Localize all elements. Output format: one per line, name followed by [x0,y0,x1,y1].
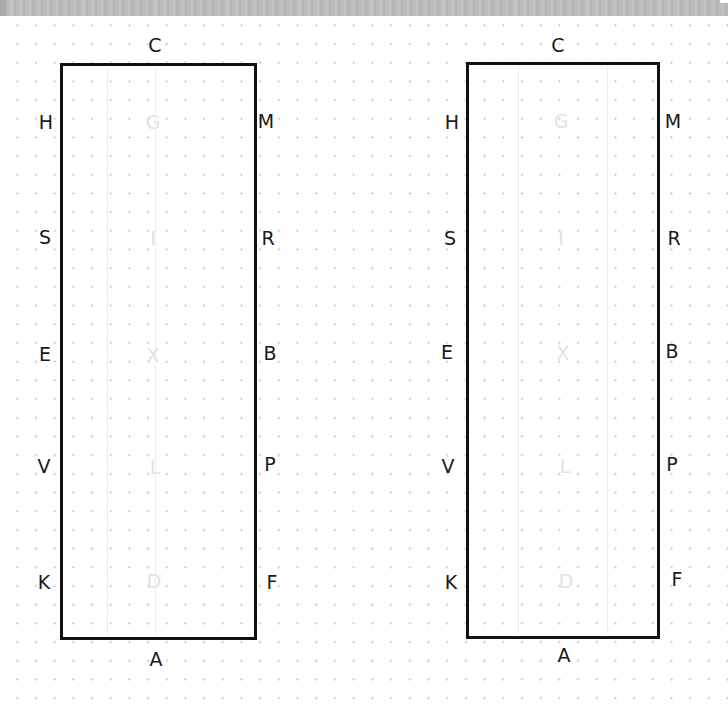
arena-right-letter-left-5: K [445,573,457,592]
arena-left-letter-top: C [148,36,161,55]
arena-right-centerline-letter-5: D [559,572,574,591]
toolbar-right-edge [720,0,728,3]
arena-right-letter-right-4: P [666,455,677,474]
arena-right-centerline-letter-2: I [558,229,564,248]
arena-left-letter-right-5: F [267,573,278,592]
arena-right-letter-left-1: H [445,113,459,132]
arena-left-letter-left-3: E [39,345,51,364]
arena-right-letter-right-3: B [665,342,678,361]
arena-right-letter-right-5: F [672,570,683,589]
arena-right-centerline-letter-1: G [554,112,569,131]
arena-left-centerline-letter-4: L [150,458,161,477]
arena-left-letter-left-5: K [38,573,50,592]
arena-left-letter-left-4: V [38,457,51,476]
arena-right-centerline-letter-3: X [556,344,569,363]
arena-left-centerline-letter-1: G [146,113,161,132]
arena-right-centerline-letter-4: L [560,457,571,476]
arena-right-letter-right-2: R [667,229,680,248]
arena-left-centerline-letter-2: I [150,229,156,248]
arena-left-letter-left-1: H [39,113,53,132]
arena-left-letter-right-1: M [258,112,274,131]
arena-left-centerline-letter-3: X [146,346,159,365]
arena-right-letter-top: C [551,36,564,55]
arena-right-letter-bottom: A [558,646,571,665]
arena-right-letter-right-1: M [665,112,681,131]
arena-left-letter-right-4: P [264,455,275,474]
top-toolbar-strip [0,0,728,16]
arena-left-letter-right-3: B [263,344,276,363]
arena-left-centerline-letter-5: D [147,572,162,591]
arena-left-letter-right-2: R [261,229,274,248]
arena-right-letter-left-2: S [444,229,456,248]
toolbar-left-edge [0,0,6,16]
arena-right-letter-left-3: E [441,343,453,362]
arena-left-letter-left-2: S [39,228,51,247]
arena-right-letter-left-4: V [442,457,455,476]
arena-left-letter-bottom: A [150,650,163,669]
